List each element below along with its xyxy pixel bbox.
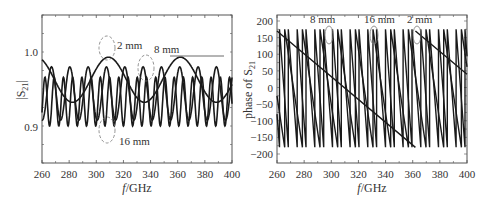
right-ytick: −150: [250, 131, 273, 143]
left-chart-magnitude: 1.0 0.9 260 280 300 320 340 360 380 400 …: [14, 15, 241, 195]
right-ytick: 50: [262, 65, 274, 77]
right-xtick: 380: [432, 168, 449, 180]
right-ytick: −200: [250, 148, 273, 160]
left-xtick: 320: [115, 168, 132, 180]
left-xtick: 280: [61, 168, 78, 180]
right-xtick: 360: [404, 168, 421, 180]
right-xtick: 300: [323, 168, 340, 180]
right-ytick: 100: [257, 48, 274, 60]
right-ytick: −50: [256, 98, 274, 110]
left-annot-2mm: 2 mm: [117, 39, 143, 51]
right-xtick: 340: [377, 168, 394, 180]
right-xtick: 280: [296, 168, 313, 180]
right-xtick: 320: [350, 168, 367, 180]
right-xlabel: f/GHz: [357, 181, 386, 195]
left-ytick-1.0: 1.0: [24, 46, 38, 58]
right-annot-8mm: 8 mm: [310, 13, 336, 25]
left-xtick: 340: [142, 168, 159, 180]
left-xtick: 360: [169, 168, 186, 180]
left-xtick: 260: [34, 168, 51, 180]
right-ytick: 150: [257, 32, 274, 44]
left-xtick: 400: [224, 168, 241, 180]
left-ytick-0.9: 0.9: [24, 121, 38, 133]
right-xtick: 260: [269, 168, 286, 180]
left-xlabel: f/GHz: [122, 181, 151, 195]
right-annot-16mm: 16 mm: [364, 13, 395, 25]
figure: 1.0 0.9 260 280 300 320 340 360 380 400 …: [0, 0, 494, 201]
right-xtick-labels: 260 280 300 320 340 360 380 400: [269, 168, 476, 180]
right-curves: [277, 29, 467, 147]
left-annot-16mm-ellipse: [99, 117, 115, 143]
left-annot-8mm: 8 mm: [154, 43, 180, 55]
right-annot-2mm: 2 mm: [407, 13, 433, 25]
right-xtick: 400: [459, 168, 476, 180]
left-curves: [42, 57, 232, 126]
left-xtick: 300: [88, 168, 105, 180]
left-annot-2mm-ellipse: [99, 36, 115, 60]
left-xtick-labels: 260 280 300 320 340 360 380 400: [34, 168, 241, 180]
right-ytick: 200: [257, 15, 274, 27]
left-xtick: 380: [197, 168, 214, 180]
right-ylabel: phase of S21: [241, 61, 257, 119]
curve-16mm: [277, 29, 467, 147]
left-annot-16mm: 16 mm: [119, 135, 150, 147]
right-ytick: 0: [268, 82, 274, 94]
left-ylabel: |S21|: [14, 80, 30, 99]
right-chart-phase: 200 150 100 50 0 −50 −100 −150 −200 260 …: [241, 13, 476, 195]
